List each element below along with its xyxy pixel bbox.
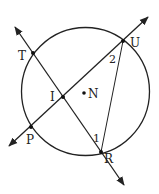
label-U: U bbox=[130, 36, 140, 50]
angle-label-2: 2 bbox=[109, 53, 116, 66]
point-I bbox=[61, 95, 65, 99]
label-R: R bbox=[104, 152, 114, 166]
angle-label-1: 1 bbox=[93, 132, 100, 145]
label-N: N bbox=[88, 87, 99, 101]
label-I: I bbox=[50, 90, 55, 104]
point-N bbox=[82, 91, 86, 95]
label-T: T bbox=[18, 49, 26, 63]
point-T bbox=[31, 51, 35, 55]
point-R bbox=[99, 150, 103, 154]
point-U bbox=[121, 39, 125, 43]
label-P: P bbox=[26, 133, 34, 147]
point-P bbox=[29, 125, 33, 129]
circle-diagram: T U P R I N 1 2 bbox=[0, 0, 159, 194]
